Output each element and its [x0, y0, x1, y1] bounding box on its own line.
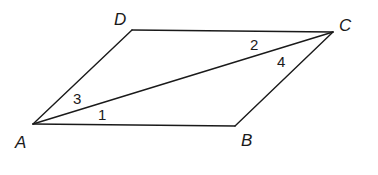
angle-label-3: 3: [73, 90, 81, 107]
parallelogram-figure: A B C D 1 2 3 4: [0, 0, 378, 175]
angle-label-2: 2: [250, 36, 258, 53]
vertex-label-d: D: [114, 10, 126, 29]
angle-label-1: 1: [98, 106, 106, 123]
vertex-label-b: B: [241, 131, 252, 150]
angle-label-4: 4: [277, 53, 285, 70]
vertex-label-a: A: [14, 133, 26, 152]
side-da: [33, 30, 132, 124]
diagonal-ac: [33, 32, 333, 124]
side-cd: [132, 30, 333, 32]
vertex-label-c: C: [339, 16, 352, 35]
parallelogram-diagram: A B C D 1 2 3 4: [0, 0, 378, 175]
side-ab: [33, 124, 235, 126]
